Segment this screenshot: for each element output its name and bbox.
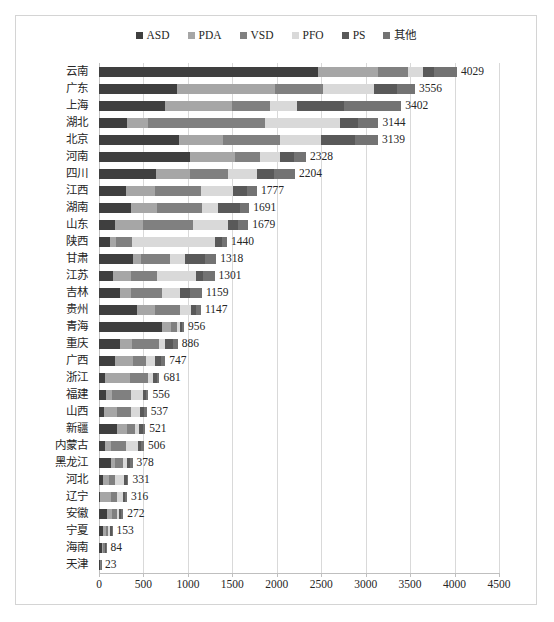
stacked-bar[interactable]: [99, 237, 227, 247]
bar-segment-其他[interactable]: [125, 492, 127, 502]
bar-row[interactable]: 23: [99, 560, 499, 570]
bar-segment-PDA[interactable]: [117, 424, 128, 434]
bar-segment-其他[interactable]: [238, 220, 249, 230]
bar-segment-PS[interactable]: [340, 118, 358, 128]
stacked-bar[interactable]: [99, 101, 401, 111]
stacked-bar[interactable]: [99, 220, 248, 230]
bar-row[interactable]: 316: [99, 492, 499, 502]
bar-segment-PFO[interactable]: [201, 186, 233, 196]
stacked-bar[interactable]: [99, 67, 457, 77]
bar-segment-其他[interactable]: [112, 526, 113, 536]
bar-segment-PFO[interactable]: [162, 288, 181, 298]
bar-segment-VSD[interactable]: [141, 254, 169, 264]
bar-segment-其他[interactable]: [355, 135, 378, 145]
bar-segment-PDA[interactable]: [127, 118, 149, 128]
bar-segment-ASD[interactable]: [99, 458, 111, 468]
bar-segment-其他[interactable]: [397, 84, 415, 94]
bar-segment-其他[interactable]: [205, 254, 216, 264]
bar-segment-PFO[interactable]: [180, 305, 191, 315]
stacked-bar[interactable]: [99, 543, 106, 553]
stacked-bar[interactable]: [99, 424, 145, 434]
bar-segment-ASD[interactable]: [99, 67, 318, 77]
bar-row[interactable]: 886: [99, 339, 499, 349]
bar-segment-VSD[interactable]: [232, 101, 269, 111]
stacked-bar[interactable]: [99, 203, 249, 213]
bar-segment-PDA[interactable]: [113, 271, 130, 281]
bar-segment-其他[interactable]: [203, 271, 215, 281]
bar-segment-PDA[interactable]: [120, 288, 132, 298]
bar-segment-PDA[interactable]: [133, 254, 141, 264]
bar-segment-PDA[interactable]: [318, 67, 378, 77]
bar-segment-其他[interactable]: [144, 407, 147, 417]
bar-segment-VSD[interactable]: [378, 67, 408, 77]
bar-segment-其他[interactable]: [196, 305, 201, 315]
bar-segment-VSD[interactable]: [275, 84, 323, 94]
bar-segment-PDA[interactable]: [105, 373, 129, 383]
stacked-bar[interactable]: [99, 458, 133, 468]
bar-segment-ASD[interactable]: [99, 118, 127, 128]
bar-segment-ASD[interactable]: [99, 339, 120, 349]
bar-row[interactable]: 2328: [99, 152, 499, 162]
bar-segment-其他[interactable]: [143, 424, 146, 434]
bar-segment-VSD[interactable]: [130, 373, 148, 383]
bar-segment-ASD[interactable]: [99, 254, 133, 264]
bar-segment-其他[interactable]: [161, 356, 165, 366]
bar-segment-VSD[interactable]: [148, 118, 264, 128]
bar-row[interactable]: 1691: [99, 203, 499, 213]
bar-segment-PFO[interactable]: [228, 169, 257, 179]
bar-segment-PFO[interactable]: [260, 152, 280, 162]
bar-row[interactable]: 556: [99, 390, 499, 400]
bar-segment-PDA[interactable]: [115, 356, 133, 366]
bar-segment-PDA[interactable]: [156, 169, 191, 179]
bar-segment-PDA[interactable]: [137, 305, 154, 315]
stacked-bar[interactable]: [99, 526, 113, 536]
bar-segment-PS[interactable]: [280, 152, 294, 162]
bar-row[interactable]: 3556: [99, 84, 499, 94]
legend-item-PS[interactable]: PS: [342, 30, 366, 42]
bar-row[interactable]: 1318: [99, 254, 499, 264]
bar-segment-ASD[interactable]: [99, 84, 177, 94]
bar-segment-VSD[interactable]: [111, 441, 126, 451]
legend-item-ASD[interactable]: ASD: [136, 30, 170, 42]
bar-segment-ASD[interactable]: [99, 322, 162, 332]
bar-segment-ASD[interactable]: [99, 237, 110, 247]
bar-segment-PS[interactable]: [374, 84, 397, 94]
bar-segment-PDA[interactable]: [165, 101, 233, 111]
bar-segment-VSD[interactable]: [190, 169, 227, 179]
bar-segment-其他[interactable]: [240, 203, 250, 213]
bar-segment-PFO[interactable]: [157, 271, 196, 281]
stacked-bar[interactable]: [99, 169, 295, 179]
bar-row[interactable]: 1777: [99, 186, 499, 196]
bar-segment-ASD[interactable]: [99, 390, 106, 400]
stacked-bar[interactable]: [99, 373, 159, 383]
bar-segment-PFO[interactable]: [115, 475, 124, 485]
bar-row[interactable]: 3402: [99, 101, 499, 111]
bar-row[interactable]: 521: [99, 424, 499, 434]
stacked-bar[interactable]: [99, 254, 216, 264]
bar-segment-VSD[interactable]: [131, 288, 162, 298]
stacked-bar[interactable]: [99, 356, 165, 366]
stacked-bar[interactable]: [99, 152, 306, 162]
bar-segment-其他[interactable]: [358, 118, 378, 128]
bar-segment-其他[interactable]: [141, 441, 144, 451]
bar-segment-其他[interactable]: [157, 373, 160, 383]
stacked-bar[interactable]: [99, 84, 415, 94]
bar-segment-PFO[interactable]: [265, 118, 340, 128]
bar-segment-PFO[interactable]: [408, 67, 422, 77]
bar-row[interactable]: 681: [99, 373, 499, 383]
bar-segment-PDA[interactable]: [177, 84, 275, 94]
bar-segment-ASD[interactable]: [99, 203, 131, 213]
stacked-bar[interactable]: [99, 305, 201, 315]
bar-segment-ASD[interactable]: [99, 305, 137, 315]
bar-segment-PFO[interactable]: [270, 101, 298, 111]
bar-segment-其他[interactable]: [130, 458, 133, 468]
bar-segment-PS[interactable]: [257, 169, 274, 179]
stacked-bar[interactable]: [99, 390, 148, 400]
bar-segment-ASD[interactable]: [99, 135, 179, 145]
bar-row[interactable]: 1147: [99, 305, 499, 315]
bar-segment-VSD[interactable]: [116, 237, 132, 247]
stacked-bar[interactable]: [99, 560, 101, 570]
bar-segment-PS[interactable]: [228, 220, 238, 230]
bar-segment-其他[interactable]: [222, 237, 227, 247]
bar-segment-PS[interactable]: [180, 288, 190, 298]
